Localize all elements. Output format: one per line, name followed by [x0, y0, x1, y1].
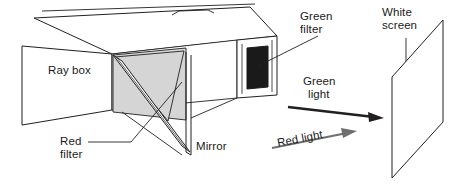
red-filter-label-line1: Red — [60, 135, 81, 148]
white-screen-label-line1: White — [382, 6, 412, 19]
diagram-canvas: Ray box Green filter White screen Green … — [0, 0, 466, 188]
white-screen-label-line2: screen — [382, 19, 417, 32]
green-light-arrow — [288, 107, 384, 122]
mirror-label: Mirror — [196, 140, 227, 153]
green-light-label-line1: Green — [303, 75, 335, 88]
white-screen — [392, 20, 443, 178]
ray-box-front-face — [22, 46, 112, 125]
green-filter-panel — [247, 46, 268, 89]
red-filter-label-line2: filter — [60, 148, 82, 161]
ray-box-label: Ray box — [48, 64, 91, 77]
mirror-bottom-edge — [186, 152, 191, 155]
green-light-label-line2: light — [308, 88, 330, 101]
green-filter-label-line1: Green — [300, 10, 332, 23]
green-filter-label-line2: filter — [300, 23, 322, 36]
